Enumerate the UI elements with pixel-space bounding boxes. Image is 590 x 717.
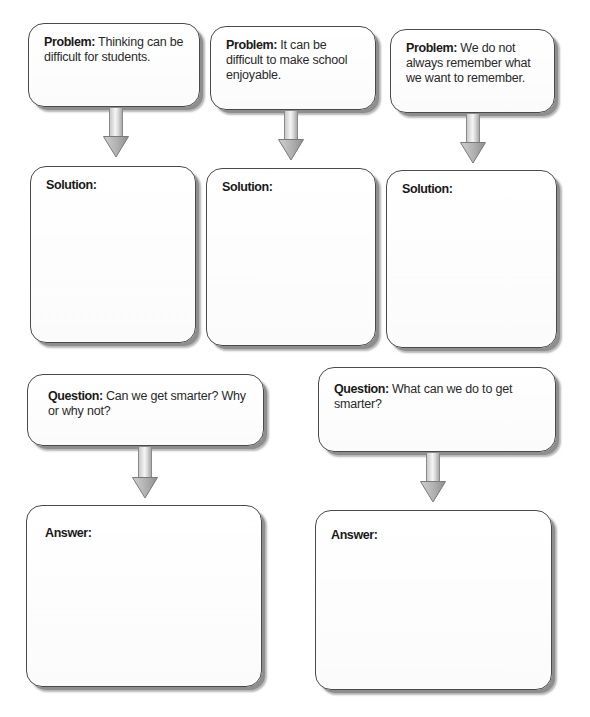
down-arrow-icon xyxy=(278,111,304,161)
problem-box-3: Problem: We do not always remember what … xyxy=(390,29,555,113)
problem-box-1: Problem: Thinking can be difficult for s… xyxy=(28,23,200,107)
solution-label: Solution: xyxy=(46,178,97,192)
solution-box-3[interactable]: Solution: xyxy=(386,170,557,348)
answer-label: Answer: xyxy=(331,528,378,542)
problem-box-2: Problem: It can be difficult to make sch… xyxy=(210,26,376,110)
down-arrow-icon xyxy=(132,447,158,499)
question-label: Question: xyxy=(48,389,103,403)
down-arrow-icon xyxy=(103,108,129,158)
solution-label: Solution: xyxy=(222,180,273,194)
problem-label: Problem: xyxy=(406,41,457,55)
down-arrow-icon xyxy=(460,114,486,164)
solution-label: Solution: xyxy=(402,182,453,196)
answer-label: Answer: xyxy=(45,526,92,540)
question-box-1: Question: Can we get smarter? Why or why… xyxy=(27,374,264,446)
problem-label: Problem: xyxy=(226,38,277,52)
solution-box-2[interactable]: Solution: xyxy=(206,168,376,346)
problem-label: Problem: xyxy=(44,35,95,49)
answer-box-2[interactable]: Answer: xyxy=(315,510,552,690)
question-label: Question: xyxy=(334,382,389,396)
down-arrow-icon xyxy=(420,453,446,503)
solution-box-1[interactable]: Solution: xyxy=(30,166,196,343)
question-box-2: Question: What can we do to get smarter? xyxy=(318,367,556,452)
answer-box-1[interactable]: Answer: xyxy=(26,505,262,687)
